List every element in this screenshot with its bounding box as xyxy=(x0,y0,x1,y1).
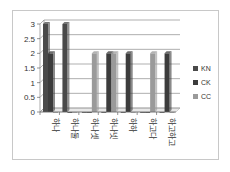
y-tick-label: 0 xyxy=(31,108,36,117)
x-tick-label: 하나 xyxy=(51,118,61,133)
bar xyxy=(92,53,97,112)
legend-label: KN xyxy=(201,65,211,72)
bar xyxy=(165,53,170,112)
y-tick-label: 2 xyxy=(31,49,36,58)
y-tick-label: 1.5 xyxy=(24,64,36,73)
legend-label: CC xyxy=(201,93,211,100)
bar xyxy=(106,53,111,112)
legend-swatch xyxy=(193,66,198,71)
gridline-side xyxy=(40,20,44,24)
x-tick-label: 하나넷 xyxy=(109,118,119,139)
bar-side xyxy=(53,51,55,112)
bar xyxy=(43,24,48,112)
y-tick-label: 2.5 xyxy=(24,35,36,44)
bar-side xyxy=(97,51,99,112)
x-tick-label: 하고하고 xyxy=(167,118,177,146)
y-axis: 00.511.522.53 xyxy=(24,20,40,117)
x-tick-label: 하고다 xyxy=(148,118,158,140)
bar xyxy=(62,24,67,112)
bar xyxy=(48,53,53,112)
bar-side xyxy=(67,22,69,112)
y-tick-label: 0.5 xyxy=(24,93,36,102)
legend-label: CK xyxy=(201,79,211,86)
legend: KNCKCC xyxy=(193,65,211,100)
bar-side xyxy=(131,51,133,112)
y-tick-label: 1 xyxy=(31,79,36,88)
bar-side xyxy=(116,51,118,112)
x-tick-label: 하나둘 xyxy=(70,118,80,139)
bar xyxy=(126,53,131,112)
y-tick-label: 3 xyxy=(31,20,36,29)
legend-swatch xyxy=(193,94,198,99)
bar xyxy=(111,53,116,112)
x-tick-label: 하나셋 xyxy=(90,118,100,139)
bar-chart: 00.511.522.53 하나하나둘하나셋하나넷하하하고다하고하고 KNCKC… xyxy=(0,0,230,172)
bar-side xyxy=(155,51,157,112)
bar xyxy=(150,53,155,112)
x-tick-label: 하하 xyxy=(128,118,138,133)
bars xyxy=(43,22,175,113)
legend-swatch xyxy=(193,80,198,85)
bar-side xyxy=(170,51,172,112)
x-axis: 하나하나둘하나셋하나넷하하하고다하고하고 xyxy=(40,112,177,146)
